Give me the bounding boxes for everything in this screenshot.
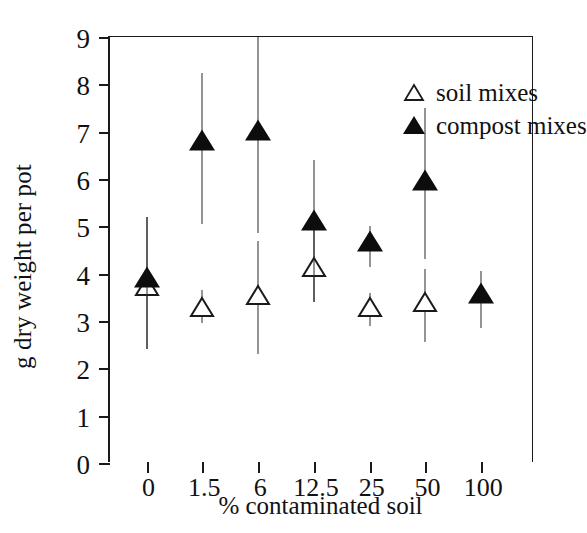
filled-triangle-icon	[402, 114, 426, 136]
y-tick-label: 3	[77, 310, 91, 337]
legend-label: soil mixes	[436, 80, 538, 105]
y-tick-8: 8	[99, 84, 110, 86]
plot-area: 0123456789 01.5612.52550100 soil mixesco…	[108, 36, 533, 462]
legend-entry-2[interactable]: compost mixes	[402, 110, 587, 140]
y-tick-2: 2	[99, 368, 110, 370]
filled-triangle-icon	[412, 169, 438, 190]
y-tick-1: 1	[99, 416, 110, 418]
error-bar	[313, 160, 314, 302]
y-tick-label: 2	[77, 357, 91, 384]
x-tick-0: 0	[147, 462, 149, 473]
filled-triangle-icon	[301, 209, 327, 230]
x-axis-title: % contaminated soil	[108, 492, 533, 520]
x-tick-50: 50	[425, 462, 427, 473]
y-tick-label: 9	[77, 26, 91, 53]
y-tick-4: 4	[99, 274, 110, 276]
y-axis-title: g dry weight per pot	[0, 0, 46, 533]
filled-triangle-icon	[468, 283, 494, 304]
filled-triangle-icon	[357, 231, 383, 252]
y-tick-6: 6	[99, 179, 110, 181]
x-tick-25: 25	[370, 462, 372, 473]
y-tick-0: 0	[99, 463, 110, 465]
x-tick-12.5: 12.5	[314, 462, 316, 473]
x-tick-6: 6	[258, 462, 260, 473]
y-tick-3: 3	[99, 321, 110, 323]
y-tick-label: 1	[77, 404, 91, 431]
y-tick-label: 8	[77, 73, 91, 100]
filled-triangle-icon	[189, 129, 215, 150]
y-tick-5: 5	[99, 226, 110, 228]
filled-triangle-icon	[134, 266, 160, 287]
legend-entry-1[interactable]: soil mixes	[402, 77, 587, 107]
open-triangle-icon	[402, 81, 426, 103]
y-tick-7: 7	[99, 132, 110, 134]
x-tick-100: 100	[481, 462, 483, 473]
y-tick-label: 6	[77, 168, 91, 195]
filled-triangle-icon	[245, 120, 271, 141]
y-tick-9: 9	[99, 37, 110, 39]
chart-legend: soil mixescompost mixes	[402, 77, 587, 140]
x-tick-1.5: 1.5	[202, 462, 204, 473]
y-tick-label: 4	[77, 262, 91, 289]
y-tick-label: 5	[77, 215, 91, 242]
y-tick-label: 7	[77, 120, 91, 147]
legend-label: compost mixes	[436, 113, 587, 138]
y-tick-label: 0	[77, 452, 91, 479]
